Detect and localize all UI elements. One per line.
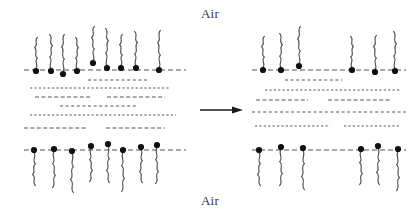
surfactant-tail xyxy=(122,153,125,192)
surfactant-head xyxy=(120,147,126,153)
surfactant-head xyxy=(51,146,57,152)
air-label-top: Air xyxy=(0,6,420,22)
right-panel xyxy=(252,26,406,190)
surfactant-tail xyxy=(262,36,265,67)
surfactant-tail xyxy=(156,148,159,184)
surfactant-head xyxy=(33,68,39,74)
surfactant-head xyxy=(156,67,162,73)
surfactant-head xyxy=(278,67,284,73)
arrow-head-icon xyxy=(232,107,243,114)
surfactant-tail xyxy=(280,150,283,186)
surfactant-head xyxy=(31,147,37,153)
surfactant-tail xyxy=(90,149,93,182)
surfactant-head xyxy=(372,69,378,75)
surfactant-tail xyxy=(258,153,261,186)
surfactant-head xyxy=(118,65,124,71)
surfactant-head xyxy=(133,65,139,71)
surfactant-film-diagram: Air Air xyxy=(0,0,420,218)
surfactant-head xyxy=(358,146,364,152)
surfactant-head xyxy=(104,65,110,71)
surfactant-head xyxy=(278,144,284,150)
surfactant-head xyxy=(69,148,75,154)
surfactant-head xyxy=(300,145,306,151)
surfactant-tail xyxy=(158,30,161,67)
surfactant-tail xyxy=(351,36,354,67)
surfactant-tail xyxy=(302,151,305,190)
surfactant-head xyxy=(90,60,96,66)
surfactant-tail xyxy=(76,37,79,68)
surfactant-tail xyxy=(360,152,363,185)
surfactant-head xyxy=(349,67,355,73)
surfactant-head xyxy=(88,143,94,149)
diagram-canvas xyxy=(0,0,420,218)
air-label-bottom: Air xyxy=(0,193,420,209)
surfactant-head xyxy=(48,68,54,74)
surfactant-tail xyxy=(50,34,53,68)
surfactant-tail xyxy=(62,34,65,71)
surfactant-tail xyxy=(120,34,123,65)
surfactant-tail xyxy=(377,149,380,185)
surfactant-head xyxy=(395,146,401,152)
surfactant-tail xyxy=(71,154,74,193)
surfactant-head xyxy=(375,143,381,149)
transition-arrow xyxy=(200,107,243,114)
surfactant-tail xyxy=(53,152,56,188)
surfactant-head xyxy=(154,142,160,148)
surfactant-tail xyxy=(107,147,110,183)
surfactant-head xyxy=(60,71,66,77)
surfactant-head xyxy=(260,67,266,73)
surfactant-tail xyxy=(135,31,138,65)
surfactant-tail xyxy=(394,31,397,68)
surfactant-tail xyxy=(298,26,301,63)
surfactant-head xyxy=(296,63,302,69)
surfactant-tail xyxy=(374,35,377,69)
surfactant-tail xyxy=(397,152,400,191)
surfactant-tail xyxy=(92,26,95,60)
surfactant-head xyxy=(74,68,80,74)
surfactant-head xyxy=(138,144,144,150)
surfactant-head xyxy=(256,147,262,153)
left-panel xyxy=(24,26,186,192)
surfactant-tail xyxy=(106,28,109,65)
surfactant-tail xyxy=(280,33,283,67)
surfactant-head xyxy=(105,141,111,147)
surfactant-tail xyxy=(140,150,143,183)
surfactant-tail xyxy=(35,37,38,68)
surfactant-tail xyxy=(33,153,36,186)
surfactant-head xyxy=(392,68,398,74)
